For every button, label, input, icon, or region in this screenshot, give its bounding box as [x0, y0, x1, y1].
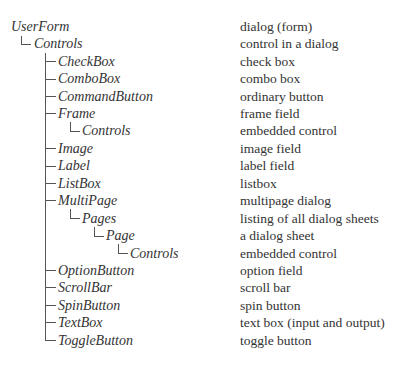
object-name: SpinButton	[58, 297, 120, 314]
tree-row-controls: Controls control in a dialog	[0, 35, 393, 52]
object-description: ordinary button	[240, 88, 324, 105]
tree-row-label: Label label field	[0, 157, 393, 174]
object-description: combo box	[240, 70, 300, 87]
tree-row-multipage: MultiPage multipage dialog	[0, 192, 393, 209]
tree-row-optionbutton: OptionButton option field	[0, 262, 393, 279]
object-name: Image	[58, 140, 93, 157]
tree-row-image: Image image field	[0, 140, 393, 157]
object-description: embedded control	[240, 245, 337, 262]
object-name: CheckBox	[58, 53, 115, 70]
object-name: OptionButton	[58, 262, 134, 279]
object-name: Label	[58, 157, 90, 174]
tree-row-textbox: TextBox text box (input and output)	[0, 314, 393, 331]
object-name: ScrollBar	[58, 279, 112, 296]
object-description: image field	[240, 140, 301, 157]
object-description: dialog (form)	[240, 18, 312, 35]
object-name: Page	[106, 227, 135, 244]
object-description: label field	[240, 157, 294, 174]
object-name: Controls	[34, 35, 83, 52]
object-description: a dialog sheet	[240, 227, 314, 244]
object-name: ListBox	[58, 175, 101, 192]
object-name: MultiPage	[58, 192, 117, 209]
object-name: Controls	[130, 245, 179, 262]
tree-row-commandbutton: CommandButton ordinary button	[0, 88, 393, 105]
object-description: listbox	[240, 175, 277, 192]
object-name: Frame	[58, 105, 95, 122]
object-name: ToggleButton	[58, 332, 133, 349]
tree-row-pages: Pages listing of all dialog sheets	[0, 210, 393, 227]
tree-row-spinbutton: SpinButton spin button	[0, 297, 393, 314]
object-description: frame field	[240, 105, 300, 122]
object-description: scroll bar	[240, 279, 291, 296]
object-name: CommandButton	[58, 88, 153, 105]
object-description: embedded control	[240, 122, 337, 139]
object-description: text box (input and output)	[240, 314, 385, 331]
tree-row-combobox: ComboBox combo box	[0, 70, 393, 87]
tree-row-frame-controls: Controls embedded control	[0, 122, 393, 139]
object-description: listing of all dialog sheets	[240, 210, 379, 227]
object-name: TextBox	[58, 314, 103, 331]
object-description: control in a dialog	[240, 35, 339, 52]
tree-row-page-controls: Controls embedded control	[0, 245, 393, 262]
object-name: Pages	[82, 210, 116, 227]
tree-row-scrollbar: ScrollBar scroll bar	[0, 279, 393, 296]
tree-row-checkbox: CheckBox check box	[0, 53, 393, 70]
object-name: UserForm	[11, 18, 69, 35]
object-description: multipage dialog	[240, 192, 331, 209]
object-name: Controls	[82, 122, 131, 139]
object-description: option field	[240, 262, 303, 279]
object-description: toggle button	[240, 332, 312, 349]
tree-row-frame: Frame frame field	[0, 105, 393, 122]
tree-row-togglebutton: ToggleButton toggle button	[0, 332, 393, 349]
tree-row-page: Page a dialog sheet	[0, 227, 393, 244]
object-description: check box	[240, 53, 295, 70]
object-name: ComboBox	[58, 70, 120, 87]
tree-row-listbox: ListBox listbox	[0, 175, 393, 192]
object-description: spin button	[240, 297, 300, 314]
tree-row-userform: UserForm dialog (form)	[0, 18, 393, 35]
